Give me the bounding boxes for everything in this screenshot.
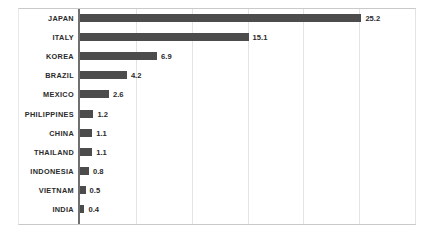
bar-chart: JAPAN25.2ITALY15.1KOREA6.9BRAZIL4.2MEXIC… <box>0 0 434 240</box>
bar-value-label: 1.2 <box>97 109 108 118</box>
bar-rows: JAPAN25.2ITALY15.1KOREA6.9BRAZIL4.2MEXIC… <box>0 8 434 219</box>
bar-row: THAILAND1.1 <box>0 142 434 161</box>
bar-value-label: 0.4 <box>88 205 99 214</box>
category-label: BRAZIL <box>45 71 74 80</box>
bar-row: VIETNAM0.5 <box>0 181 434 200</box>
bar-value-label: 4.2 <box>131 71 142 80</box>
category-label: INDONESIA <box>30 167 74 176</box>
bar-row: JAPAN25.2 <box>0 8 434 27</box>
bar-value-label: 1.1 <box>96 147 107 156</box>
category-label: MEXICO <box>43 90 74 99</box>
bar-value-label: 15.1 <box>253 32 268 41</box>
bar <box>80 90 109 98</box>
bar <box>80 52 157 60</box>
bar-row: KOREA6.9 <box>0 46 434 65</box>
bar <box>80 14 361 22</box>
bar <box>80 148 92 156</box>
bar <box>80 33 249 41</box>
bar-value-label: 0.5 <box>90 186 101 195</box>
bar-value-label: 1.1 <box>96 128 107 137</box>
bar-row: MEXICO2.6 <box>0 85 434 104</box>
bar-value-label: 2.6 <box>113 90 124 99</box>
category-label: THAILAND <box>34 147 74 156</box>
bar <box>80 186 86 194</box>
category-label: JAPAN <box>48 13 74 22</box>
bar-value-label: 6.9 <box>161 51 172 60</box>
bar-row: PHILIPPINES1.2 <box>0 104 434 123</box>
bar <box>80 167 89 175</box>
bar-row: INDONESIA0.8 <box>0 162 434 181</box>
category-label: VIETNAM <box>39 186 74 195</box>
bar <box>80 129 92 137</box>
bar <box>80 205 84 213</box>
bar-row: CHINA1.1 <box>0 123 434 142</box>
bar-row: INDIA0.4 <box>0 200 434 219</box>
bar-value-label: 0.8 <box>93 167 104 176</box>
bar <box>80 110 93 118</box>
bar-row: BRAZIL4.2 <box>0 66 434 85</box>
category-label: ITALY <box>52 32 74 41</box>
bar-value-label: 25.2 <box>365 13 380 22</box>
category-label: KOREA <box>46 51 74 60</box>
category-label: PHILIPPINES <box>25 109 74 118</box>
bar <box>80 71 127 79</box>
category-label: INDIA <box>52 205 74 214</box>
category-label: CHINA <box>49 128 74 137</box>
bar-row: ITALY15.1 <box>0 27 434 46</box>
